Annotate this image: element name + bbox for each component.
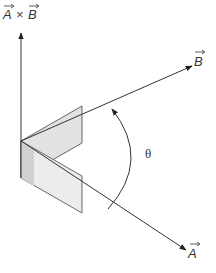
cross-operator: × xyxy=(16,7,24,22)
angle-arc xyxy=(108,109,131,209)
vector-b xyxy=(21,66,192,141)
right-angle-planes xyxy=(21,106,82,213)
vector-a xyxy=(21,141,186,250)
vector-b-label-group: B xyxy=(194,50,205,69)
cross-label-a: A xyxy=(2,7,12,22)
cross-product-diagram: θ A × B B A xyxy=(0,0,216,273)
vector-b-label: B xyxy=(194,54,203,69)
vector-a-label: A xyxy=(187,246,197,261)
cross-product-label: A × B xyxy=(2,4,39,22)
angle-label: θ xyxy=(145,146,151,161)
cross-label-b: B xyxy=(28,7,37,22)
vector-a-label-group: A xyxy=(187,242,200,261)
